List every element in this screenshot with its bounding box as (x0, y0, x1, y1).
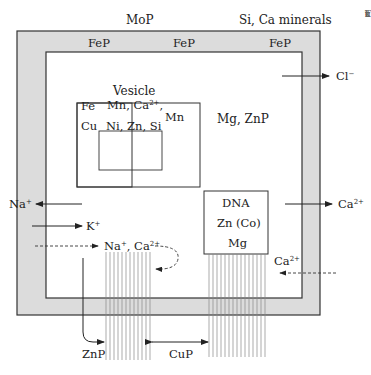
ion-na2-charge: + (121, 240, 127, 248)
ion-cl-symbol: Cl (336, 69, 348, 83)
vesicle-title: Vesicle (113, 84, 155, 98)
ion-k-charge: + (95, 220, 101, 228)
label-znp: ZnP (82, 347, 105, 361)
ion-k-symbol: K (86, 219, 95, 233)
vesicle-fe: Fe (81, 99, 95, 113)
ion-ca-out-charge: 2+ (354, 198, 364, 206)
ion-na-charge: + (26, 198, 32, 206)
dna-line3: Mg (228, 236, 247, 250)
cytoplasm-label: Mg, ZnP (217, 112, 269, 126)
ion-na-ca-in: Na+, Ca2+ (104, 239, 160, 253)
label-mop: MoP (126, 13, 154, 27)
vesicle-inner-line1: Mn, Ca2+, (107, 98, 163, 112)
ion-ca-in-charge: 2+ (290, 255, 300, 263)
ion-ca-in-symbol: Ca (274, 254, 290, 268)
label-fep-1: FeP (88, 36, 110, 50)
label-fep-2: FeP (173, 36, 195, 50)
vesicle-inner-line2: Ni, Zn, Si (106, 119, 161, 133)
ion-na-out: Na+ (9, 197, 32, 211)
vesicle-cu: Cu (81, 119, 97, 133)
label-fep-3: FeP (269, 36, 291, 50)
ion-cl-charge: − (348, 70, 354, 78)
cell-membrane (46, 52, 302, 298)
dna-line2: Zn (Co) (217, 216, 261, 230)
ion-ca-out: Ca2+ (338, 197, 364, 211)
dna-line1: DNA (222, 196, 250, 210)
vesicle-inner-mn-ca: Mn, Ca (107, 98, 149, 112)
vesicle-inner-comma: , (159, 98, 163, 112)
label-si-ca-minerals: Si, Ca minerals (239, 13, 332, 27)
edge-fragment: t (365, 8, 369, 21)
ion-ca2-symbol: Ca (134, 239, 150, 253)
vesicle-mn: Mn (165, 110, 184, 124)
ion-ca2-charge: 2+ (150, 240, 160, 248)
ion-ca-in: Ca2+ (274, 254, 300, 268)
label-cup: CuP (169, 347, 193, 361)
ion-na2-symbol: Na (104, 239, 121, 253)
ion-na-symbol: Na (9, 197, 26, 211)
ion-cl: Cl− (336, 69, 354, 83)
ion-k-in: K+ (86, 219, 100, 233)
vesicle-inner-ca-charge: 2+ (149, 99, 159, 107)
ion-ca-out-symbol: Ca (338, 197, 354, 211)
